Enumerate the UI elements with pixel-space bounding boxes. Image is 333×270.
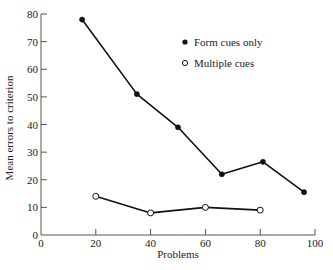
y-tick-label: 70 <box>27 36 39 48</box>
legend-marker-multiple-cues <box>182 60 187 65</box>
data-point-multiple-cues <box>93 193 99 199</box>
y-axis-label: Mean errors to criterion <box>3 75 15 180</box>
x-tick-label: 80 <box>255 237 267 249</box>
x-tick-label: 100 <box>307 237 324 249</box>
data-point-form-cues-only <box>219 172 224 177</box>
x-tick-label: 40 <box>145 237 157 249</box>
y-axis-ticks: 01020304050607080 <box>27 8 47 241</box>
x-tick-label: 60 <box>200 237 212 249</box>
data-point-multiple-cues <box>202 204 208 210</box>
legend-label-multiple-cues: Multiple cues <box>194 57 254 69</box>
x-axis-label: Problems <box>157 248 199 260</box>
y-tick-label: 30 <box>27 146 39 158</box>
data-point-form-cues-only <box>175 125 180 130</box>
data-point-form-cues-only <box>134 92 139 97</box>
y-tick-label: 0 <box>33 229 39 241</box>
legend-marker-form-cues <box>182 39 187 44</box>
y-tick-label: 40 <box>27 119 39 131</box>
line-chart: 020406080100 01020304050607080 Problems … <box>0 0 333 270</box>
y-tick-label: 50 <box>27 91 39 103</box>
legend: Form cues only Multiple cues <box>182 36 263 69</box>
data-point-form-cues-only <box>80 17 85 22</box>
y-tick-label: 10 <box>27 201 39 213</box>
data-point-multiple-cues <box>148 210 154 216</box>
x-tick-label: 0 <box>38 237 44 249</box>
y-tick-label: 20 <box>27 174 39 186</box>
data-point-form-cues-only <box>260 159 265 164</box>
data-point-form-cues-only <box>301 190 306 195</box>
x-tick-label: 20 <box>90 237 102 249</box>
y-tick-label: 80 <box>27 8 39 20</box>
y-tick-label: 60 <box>27 63 39 75</box>
series-line-multiple-cues <box>96 196 260 213</box>
x-axis-ticks: 020406080100 <box>38 229 324 249</box>
legend-label-form-cues: Form cues only <box>194 36 263 48</box>
data-point-multiple-cues <box>257 207 263 213</box>
